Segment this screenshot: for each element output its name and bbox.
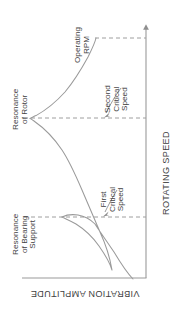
second-critical-speed-arrowhead-icon <box>104 113 110 118</box>
vibration-response-figure: Operating RPM Second Critical Speed Firs… <box>0 0 176 319</box>
rotating-speed-axis-title: ROTATING SPEED <box>162 131 172 215</box>
operating-rpm-label: Operating RPM <box>74 27 91 63</box>
first-critical-speed-arrowhead-icon <box>103 212 109 217</box>
vibration-amplitude-axis-title: VIBRATION AMPLITUDE <box>25 288 145 298</box>
first-critical-speed-label: First Critical Speed <box>100 187 126 212</box>
resonance-of-rotor-label: Resonance of Rotor <box>12 89 29 130</box>
second-critical-speed-label: Second Critical Speed <box>104 85 130 113</box>
vibration-response-curve <box>30 38 133 279</box>
resonance-of-bearing-support-label: Resonance of Bearing Support <box>12 214 38 255</box>
